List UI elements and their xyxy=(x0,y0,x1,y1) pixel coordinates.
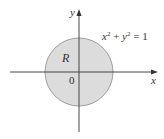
diagram-canvas: y x 0 R x2 + y2 = 1 xyxy=(0,0,164,139)
circle-equation: x2 + y2 = 1 xyxy=(101,30,148,42)
x-axis-label: x xyxy=(150,74,156,86)
equation-rhs: = 1 xyxy=(131,30,148,42)
region-label: R xyxy=(61,51,70,65)
equation-plus: + xyxy=(110,30,122,42)
origin-label: 0 xyxy=(69,74,75,86)
y-axis-arrow-icon xyxy=(77,9,82,16)
y-axis-label: y xyxy=(69,6,75,18)
